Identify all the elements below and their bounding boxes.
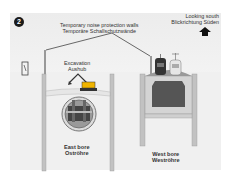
direction-label-de: Blickrichtung Süden xyxy=(171,19,219,25)
east-bore-wall-left xyxy=(42,74,46,171)
north-arrow-icon xyxy=(199,27,211,36)
west-bore-wall-left xyxy=(140,74,145,146)
step-badge: 2 xyxy=(14,17,24,27)
excavation-label: Excavation Aushub xyxy=(64,60,90,72)
noise-walls-label-de: Temporäre Schallschutzwände xyxy=(60,28,139,34)
noise-wall-pole-right xyxy=(150,56,152,74)
west-bore-interior xyxy=(152,81,185,107)
tunnel-boring-machine-icon xyxy=(62,97,96,131)
east-bore-label-de: Oströhre xyxy=(64,150,90,156)
train-icon xyxy=(155,54,166,75)
excavation-label-de: Aushub xyxy=(64,66,90,72)
west-bore-label-de: Weströhre xyxy=(152,157,180,163)
noise-wall-pole-left xyxy=(44,50,46,74)
noise-wall-line xyxy=(46,33,150,56)
tram-icon xyxy=(170,53,181,75)
train-platform xyxy=(145,70,192,76)
direction-label: Looking south Blickrichtung Süden xyxy=(171,13,219,25)
noise-walls-label: Temporary noise protection walls Temporä… xyxy=(60,22,139,34)
west-bore-wall-right xyxy=(192,74,197,146)
traffic-light-icon xyxy=(22,62,28,75)
east-bore-label: East bore Oströhre xyxy=(64,144,90,156)
east-bore-wall-right xyxy=(110,74,114,171)
west-bore-label: West bore Weströhre xyxy=(152,151,180,163)
excavator-icon xyxy=(68,74,97,91)
